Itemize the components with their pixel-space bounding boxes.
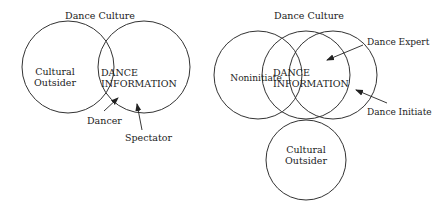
outsider-label-line2: Outsider xyxy=(34,77,76,88)
outsider-label-line2: Outsider xyxy=(285,155,327,166)
dance-initiate-label: Dance Initiate xyxy=(367,107,432,117)
spectator-label: Spectator xyxy=(125,132,173,143)
diagram-svg: Dance Culture Cultural Outsider DANCE IN… xyxy=(0,0,440,208)
info-label-line1: DANCE xyxy=(273,67,310,78)
dance-initiate-arrow xyxy=(356,90,387,103)
dancer-arrow xyxy=(104,98,118,111)
info-label-line2: INFORMATION xyxy=(273,78,349,89)
spectator-arrow xyxy=(137,104,142,130)
left-diagram: Dance Culture Cultural Outsider DANCE IN… xyxy=(22,10,190,143)
dance-expert-arrow xyxy=(327,45,363,60)
info-label-line2: INFORMATION xyxy=(101,78,177,89)
dance-expert-label: Dance Expert xyxy=(367,37,430,47)
info-label-line1: DANCE xyxy=(101,67,138,78)
outsider-label-line1: Cultural xyxy=(35,66,75,77)
outsider-label-line1: Cultural xyxy=(286,144,326,155)
left-title: Dance Culture xyxy=(65,10,135,21)
dance-culture-figure: Dance Culture Cultural Outsider DANCE IN… xyxy=(0,0,440,208)
dancer-label: Dancer xyxy=(87,115,122,126)
right-title: Dance Culture xyxy=(274,10,344,21)
right-diagram: Dance Culture Noninitiate DANCE INFORMAT… xyxy=(214,10,432,200)
